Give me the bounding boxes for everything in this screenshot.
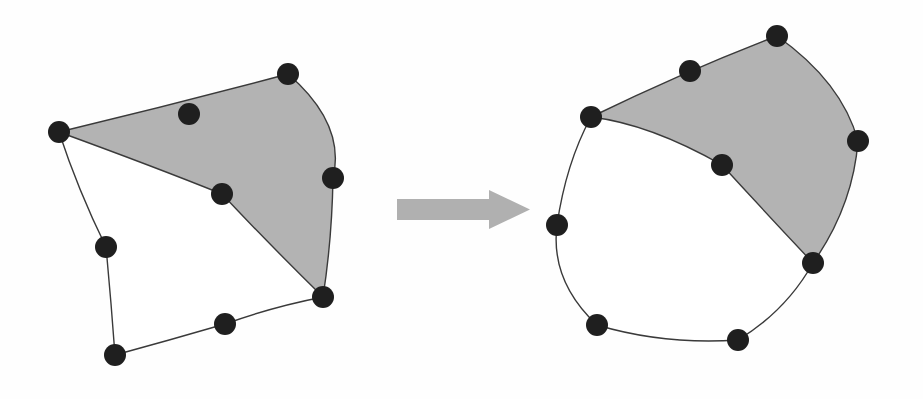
- mesh-node-l6: [214, 313, 236, 335]
- geometry-diagram: [0, 0, 923, 399]
- mesh-node-l4: [322, 167, 344, 189]
- right-element-group: [546, 25, 869, 351]
- mesh-node-r8: [546, 214, 568, 236]
- mesh-node-r1: [580, 106, 602, 128]
- left-element-group: [48, 63, 344, 366]
- mesh-node-l2: [178, 103, 200, 125]
- mesh-node-l7: [104, 344, 126, 366]
- figure-canvas: elemento elementos solido: [0, 0, 923, 399]
- transformation-arrow: [397, 190, 530, 229]
- mesh-node-l5: [312, 286, 334, 308]
- mesh-node-l3: [277, 63, 299, 85]
- mesh-node-r4: [847, 130, 869, 152]
- mesh-node-r2: [679, 60, 701, 82]
- mesh-node-r5: [802, 252, 824, 274]
- mesh-node-l1: [48, 121, 70, 143]
- mesh-node-r9: [711, 154, 733, 176]
- mesh-node-r7: [586, 314, 608, 336]
- mesh-node-l9: [211, 183, 233, 205]
- mesh-node-r6: [727, 329, 749, 351]
- mesh-node-l8: [95, 236, 117, 258]
- transformation-arrow-group: [397, 190, 530, 229]
- mesh-node-r3: [766, 25, 788, 47]
